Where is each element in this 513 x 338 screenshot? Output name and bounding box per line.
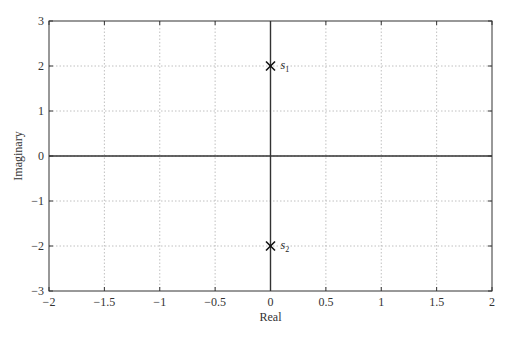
y-tick-label: 1 [38, 104, 44, 118]
pole-plot: −2−1.5−1−0.500.511.52 −3−2−10123 s1s2 Re… [0, 0, 513, 338]
y-tick-label: 2 [38, 59, 44, 73]
x-tick-label: 0 [268, 295, 274, 309]
y-tick-label: −3 [31, 284, 44, 298]
y-axis-label: Imaginary [11, 131, 25, 180]
reference-axes [49, 21, 492, 291]
x-axis-label: Real [260, 310, 283, 324]
x-tick-label: −0.5 [204, 295, 226, 309]
y-tick-labels: −3−2−10123 [31, 14, 44, 298]
pole-label: s1 [281, 58, 290, 74]
x-tick-label: 1 [378, 295, 384, 309]
x-tick-label: −1.5 [93, 295, 115, 309]
x-tick-label: 1.5 [429, 295, 444, 309]
y-tick-label: −2 [31, 239, 44, 253]
y-tick-label: −1 [31, 194, 44, 208]
pole-label: s2 [281, 238, 290, 254]
x-tick-label: 0.5 [318, 295, 333, 309]
y-tick-label: 0 [38, 149, 44, 163]
x-tick-labels: −2−1.5−1−0.500.511.52 [43, 295, 495, 309]
y-tick-label: 3 [38, 14, 44, 28]
x-tick-label: −2 [43, 295, 56, 309]
x-tick-label: 2 [489, 295, 495, 309]
x-tick-label: −1 [153, 295, 166, 309]
